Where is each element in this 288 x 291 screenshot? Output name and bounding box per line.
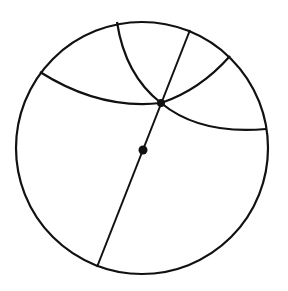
intersection-point (157, 99, 165, 107)
arc-left (40, 72, 161, 104)
diagram-canvas (0, 0, 288, 291)
arc-through (117, 22, 266, 130)
center-point (139, 146, 148, 155)
